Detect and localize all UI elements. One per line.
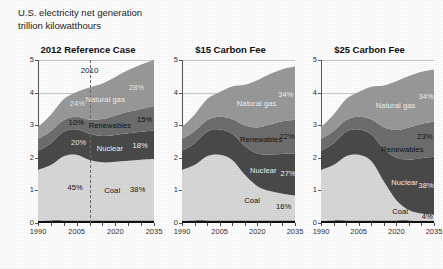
series-annotation-label: 22% [279,133,294,141]
series-annotation-label: 24% [70,100,85,108]
x-axis-tick-mark [154,223,155,226]
x-axis-tick-mark [346,223,347,226]
x-axis-tick-mark [421,223,422,226]
series-annotation-label: 23% [417,133,432,141]
x-axis-tick-mark [257,223,258,226]
x-axis-tick-label: 1990 [174,228,191,236]
chart-panel-reference: 2012 Reference Case 01234519902005202020… [14,44,162,259]
series-annotation-label: Natural gas [237,100,276,108]
x-axis-tick-mark [77,223,78,226]
series-annotation-label: 15% [137,116,152,124]
x-axis-tick-mark [64,223,65,226]
x-axis-tick-mark [409,223,410,226]
x-axis-tick-mark [102,223,103,226]
x-axis-tick-mark [195,223,196,226]
series-annotation-label: Nuclear [250,167,277,175]
series-annotation-label: Coal [104,187,120,195]
y-axis-tick-label: 1 [21,186,34,193]
series-annotation-label: 38% [130,186,145,194]
x-axis-tick-mark [334,223,335,226]
x-axis-tick-mark [384,223,385,226]
y-axis-tick-label: 3 [21,121,34,128]
series-annotation-label: 34% [418,93,433,101]
y-axis-tick-label: 2 [165,154,178,161]
chart-panel-fee15: $15 Carbon Fee 0123451990200520202035Nat… [160,44,301,259]
x-axis-tick-mark [270,223,271,226]
x-axis-tick-label: 1990 [313,228,330,236]
series-annotation-label: 27% [281,170,296,178]
x-axis-tick-mark [128,223,129,226]
series-annotation-label: Coal [392,208,408,216]
x-axis-tick-mark [232,223,233,226]
x-axis-tick-mark [38,223,39,226]
y-axis-tick-label: 5 [21,56,34,63]
y-axis-tick-label: 4 [165,89,178,96]
y-axis-tick-label: 5 [165,56,178,63]
series-annotation-label: Natural gas [86,96,125,104]
series-annotation-label: Renewables [381,146,423,154]
series-annotation-label: 10% [69,119,84,127]
plot-area: 0123451990200520202035Natural gas34%Rene… [182,60,295,223]
x-axis-tick-label: 2020 [249,228,266,236]
x-axis-tick-mark [434,223,435,226]
y-axis-tick-label: 0 [304,219,317,226]
y-axis-tick-label: 1 [304,186,317,193]
panel-title: 2012 Reference Case [14,44,162,55]
series-annotation-label: Coal [244,197,260,205]
figure-title: U.S. electricity net generation [18,7,142,20]
x-axis-tick-mark [90,223,91,226]
y-axis-tick-label: 0 [21,219,34,226]
x-axis-tick-mark [371,223,372,226]
figure-header: U.S. electricity net generation trillion… [18,7,142,32]
figure-subtitle: trillion kilowatthours [18,20,142,33]
y-axis-tick-label: 2 [304,154,317,161]
area-other [321,220,434,223]
series-annotation-label: Nuclear [391,179,418,187]
x-axis-tick-mark [220,223,221,226]
x-axis-tick-label: 2005 [68,228,85,236]
series-annotation-label: 16% [276,203,291,211]
series-annotation-label: 28% [129,84,144,92]
panel-title: $25 Carbon Fee [299,44,440,55]
series-annotation-label: 45% [67,184,82,192]
x-axis-tick-mark [295,223,296,226]
y-axis-tick-label: 5 [304,56,317,63]
x-axis-tick-label: 2020 [388,228,405,236]
x-axis-tick-mark [141,223,142,226]
area-other [38,220,154,223]
x-axis-tick-label: 2035 [426,228,443,236]
series-annotation-label: 18% [132,142,147,150]
series-annotation-label: Renewables [240,136,282,144]
projection-divider-label: 2010 [81,66,99,75]
x-axis-tick-label: 1990 [30,228,47,236]
chart-panel-fee25: $25 Carbon Fee 0123451990200520202035Nat… [299,44,440,259]
y-axis-tick-label: 0 [165,219,178,226]
y-axis-tick-label: 1 [165,186,178,193]
y-axis-tick-label: 4 [21,89,34,96]
x-axis-tick-mark [182,223,183,226]
series-annotation-label: Natural gas [376,102,415,110]
x-axis-tick-mark [207,223,208,226]
series-annotation-label: 20% [71,139,86,147]
x-axis-tick-mark [321,223,322,226]
x-axis-tick-mark [359,223,360,226]
projection-divider-line [90,60,91,223]
x-axis-tick-label: 2005 [211,228,228,236]
series-annotation-label: Renewables [89,122,131,130]
y-axis-tick-label: 3 [165,121,178,128]
y-axis-tick-label: 2 [21,154,34,161]
x-axis-tick-mark [51,223,52,226]
x-axis-tick-mark [245,223,246,226]
series-annotation-label: 4% [422,213,433,221]
x-axis-tick-mark [396,223,397,226]
stacked-area-series [321,60,434,223]
series-annotation-label: Nuclear [97,145,124,153]
x-axis-tick-mark [282,223,283,226]
x-axis-tick-label: 2020 [107,228,124,236]
panel-title: $15 Carbon Fee [160,44,301,55]
y-axis-tick-label: 3 [304,121,317,128]
area-other [182,220,295,223]
chart-figure: U.S. electricity net generation trillion… [0,0,443,269]
series-annotation-label: 38% [418,182,433,190]
x-axis-tick-mark [115,223,116,226]
